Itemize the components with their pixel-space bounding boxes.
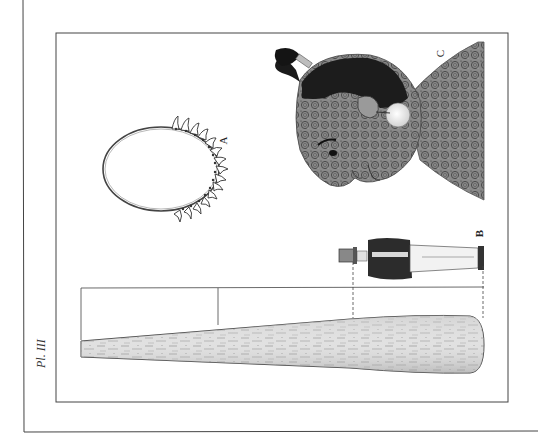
tattooed-head-figure-c bbox=[275, 42, 484, 200]
figure-label-a: A bbox=[218, 137, 229, 145]
engraving-plate: A B C Pl. III bbox=[0, 0, 538, 439]
plate-number: Pl. III bbox=[34, 339, 49, 368]
standing-man-figure-b bbox=[339, 238, 484, 280]
plate-illustration bbox=[0, 0, 538, 439]
figure-label-b: B bbox=[474, 230, 485, 237]
necklace-figure-a bbox=[103, 116, 228, 222]
war-club bbox=[81, 315, 484, 373]
figure-label-c: C bbox=[435, 50, 446, 57]
